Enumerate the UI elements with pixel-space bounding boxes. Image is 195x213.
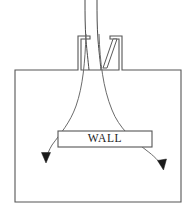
diagram-canvas: WALL [0, 0, 195, 213]
wall-label: WALL [88, 132, 122, 144]
right-flow-arrow [158, 159, 167, 170]
flow-diagram: WALL [0, 0, 195, 213]
left-flow-arrow [42, 153, 51, 164]
chamber-outline [15, 36, 181, 202]
inlet-vane [103, 39, 117, 68]
